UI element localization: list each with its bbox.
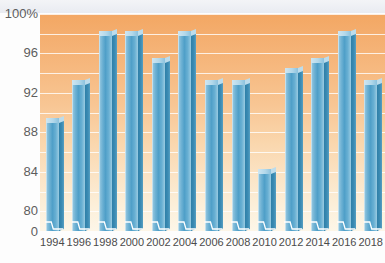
bar-side xyxy=(245,81,250,231)
bar-face xyxy=(338,34,352,231)
bar-2012[interactable] xyxy=(285,71,298,231)
bar-top xyxy=(72,80,85,85)
y-tick-label: 80 xyxy=(0,203,38,218)
x-tick-label: 2018 xyxy=(356,236,385,248)
bar-side xyxy=(191,32,196,231)
x-tick-label: 1994 xyxy=(37,236,67,248)
bar-side xyxy=(324,59,329,231)
bar-2010[interactable] xyxy=(258,172,271,231)
bar-1996[interactable] xyxy=(72,83,85,231)
bar-face xyxy=(258,172,272,231)
bar-top xyxy=(311,58,324,63)
chart-title-sliver xyxy=(0,0,385,13)
y-tick-label: 92 xyxy=(0,85,38,100)
bar-1994[interactable] xyxy=(46,121,59,231)
bar-side xyxy=(85,81,90,231)
x-tick-label: 2008 xyxy=(223,236,253,248)
y-tick-label: 96 xyxy=(0,45,38,60)
bar-face xyxy=(205,83,219,231)
bar-side xyxy=(112,32,117,231)
bar-side xyxy=(377,81,382,231)
bar-side xyxy=(271,170,276,231)
x-tick-label: 2010 xyxy=(250,236,280,248)
gridline xyxy=(40,14,385,15)
x-tick-label: 2016 xyxy=(329,236,359,248)
bar-2006[interactable] xyxy=(205,83,218,231)
bar-face xyxy=(152,61,166,231)
x-tick-label: 2014 xyxy=(303,236,333,248)
bar-top xyxy=(46,118,59,123)
x-axis-labels: 1994199619982000200220042006200820102012… xyxy=(40,236,385,256)
y-tick-label: 0 xyxy=(0,224,38,239)
bar-2014[interactable] xyxy=(311,61,324,231)
bar-side xyxy=(59,119,64,231)
bar-top xyxy=(258,169,271,174)
bar-chart: 100%96928884800 199419961998200020022004… xyxy=(0,0,385,263)
bar-side xyxy=(351,32,356,231)
gridline xyxy=(40,53,385,54)
bar-2004[interactable] xyxy=(178,34,191,231)
bar-side xyxy=(218,81,223,231)
x-tick-label: 1998 xyxy=(90,236,120,248)
bar-face xyxy=(285,71,299,231)
bar-2016[interactable] xyxy=(338,34,351,231)
x-tick-label: 1996 xyxy=(64,236,94,248)
bar-top xyxy=(125,31,138,36)
bar-2018[interactable] xyxy=(364,83,377,231)
bar-2000[interactable] xyxy=(125,34,138,231)
bar-face xyxy=(46,121,60,231)
gridline xyxy=(40,34,385,35)
y-tick-label: 84 xyxy=(0,164,38,179)
bar-top xyxy=(178,31,191,36)
bar-top xyxy=(205,80,218,85)
x-tick-label: 2002 xyxy=(143,236,173,248)
gridline xyxy=(40,73,385,74)
x-tick-label: 2012 xyxy=(276,236,306,248)
bar-top xyxy=(232,80,245,85)
bar-top xyxy=(152,58,165,63)
y-tick-label: 88 xyxy=(0,124,38,139)
bar-side xyxy=(298,69,303,231)
plot-area xyxy=(40,14,385,231)
x-tick-label: 2000 xyxy=(117,236,147,248)
bar-face xyxy=(99,34,113,231)
bar-side xyxy=(165,59,170,231)
bar-top xyxy=(364,80,377,85)
x-tick-label: 2006 xyxy=(197,236,227,248)
x-tick-label: 2004 xyxy=(170,236,200,248)
bar-top xyxy=(338,31,351,36)
y-tick-label: 100% xyxy=(0,6,38,21)
bar-face xyxy=(232,83,246,231)
bar-1998[interactable] xyxy=(99,34,112,231)
bar-top xyxy=(285,68,298,73)
bar-2008[interactable] xyxy=(232,83,245,231)
bar-top xyxy=(99,31,112,36)
bar-2002[interactable] xyxy=(152,61,165,231)
bar-side xyxy=(138,32,143,231)
